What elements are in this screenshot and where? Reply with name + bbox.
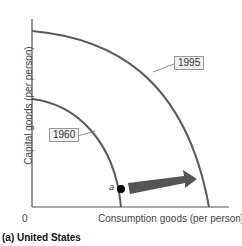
leader-1995 xyxy=(153,64,174,72)
chart-caption: (a) United States xyxy=(2,232,81,243)
label-1960: 1960 xyxy=(49,128,79,142)
x-axis-label: Consumption goods (per person) xyxy=(98,213,242,224)
shift-arrow xyxy=(128,170,197,194)
label-1995: 1995 xyxy=(174,56,204,70)
point-a-label: a xyxy=(109,182,114,192)
point-a xyxy=(117,185,125,193)
origin-label: 0 xyxy=(22,213,28,224)
ppf-1960-curve xyxy=(32,99,121,207)
y-axis-label: Capital goods (per person) xyxy=(23,36,34,176)
ppf-chart xyxy=(0,0,242,246)
